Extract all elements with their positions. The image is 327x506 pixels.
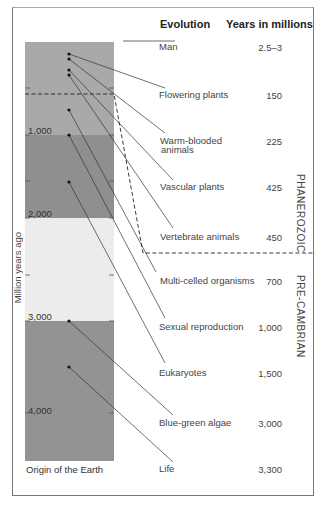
years-multi-celled: 700 [242, 276, 282, 287]
event-flowering-plants: Flowering plants [159, 90, 228, 100]
event-eukaryotes: Eukaryotes [159, 368, 207, 378]
years-blue-green-algae: 3,000 [242, 418, 282, 429]
era-phanerozoic: PHANEROZOIC [295, 174, 306, 253]
years-eukaryotes: 1,500 [242, 368, 282, 379]
years-sexual-reproduction: 1,000 [242, 322, 282, 333]
event-warm-blooded-line2: animals [161, 145, 194, 155]
connector-lines [0, 0, 327, 506]
years-flowering-plants: 150 [242, 90, 282, 101]
era-precambrian: PRE-CAMBRIAN [295, 275, 306, 358]
event-man: Man [159, 42, 177, 52]
event-vertebrate-animals: Vertebrate animals [160, 232, 239, 242]
years-vascular-plants: 425 [242, 182, 282, 193]
event-life: Life [159, 464, 174, 474]
event-sexual-reproduction: Sexual reproduction [159, 322, 244, 332]
event-multi-celled: Multi-celled organisms [160, 276, 255, 286]
years-life: 3,300 [242, 464, 282, 475]
years-warm-blooded: 225 [242, 136, 282, 147]
years-man: 2.5–3 [242, 42, 282, 53]
years-vertebrate-animals: 450 [242, 232, 282, 243]
event-vascular-plants: Vascular plants [160, 182, 224, 192]
event-blue-green-algae: Blue-green algae [159, 418, 231, 428]
